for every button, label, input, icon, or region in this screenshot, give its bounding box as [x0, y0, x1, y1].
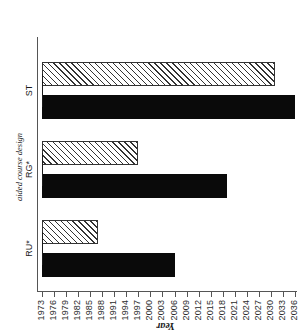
axis-tick	[66, 292, 67, 297]
bar-rg-hatched	[42, 141, 138, 165]
axis-tick	[102, 292, 103, 297]
category-axis-line	[37, 37, 38, 292]
axis-tick	[211, 292, 212, 297]
axis-tick-label: 1994	[120, 300, 130, 334]
value-axis-title: Year	[156, 321, 174, 332]
plot-area: 2036203320302027202420212018201520122009…	[0, 28, 302, 302]
axis-tick-label: 2033	[277, 300, 287, 334]
bar-rg-solid	[42, 174, 227, 198]
axis-tick-label: 1973	[36, 300, 46, 334]
category-label-rg: RG*	[24, 161, 34, 178]
axis-tick-label: 1997	[132, 300, 142, 334]
axis-tick-label: 1991	[108, 300, 118, 334]
axis-tick-label: 2021	[229, 300, 239, 334]
axis-tick	[187, 292, 188, 297]
bar-st-solid	[42, 95, 295, 119]
bar-connector-cap	[42, 153, 43, 186]
category-axis-title: aided course design	[14, 133, 24, 201]
bar-connector-cap	[42, 232, 43, 265]
axis-tick-label: 2024	[241, 300, 251, 334]
axis-tick-label: 1982	[72, 300, 82, 334]
axis-tick	[199, 292, 200, 297]
axis-tick	[162, 292, 163, 297]
axis-tick	[78, 292, 79, 297]
axis-tick-label: 2018	[217, 300, 227, 334]
axis-tick-label: 2030	[265, 300, 275, 334]
axis-tick	[54, 292, 55, 297]
bar-connector-cap	[42, 74, 43, 107]
bar-ru-solid	[42, 253, 175, 277]
axis-tick	[175, 292, 176, 297]
category-label-ru: RU*	[24, 240, 34, 257]
axis-tick-label: 2036	[289, 300, 299, 334]
axis-tick	[223, 292, 224, 297]
axis-tick-label: 1985	[84, 300, 94, 334]
bar-chart: 2036203320302027202420212018201520122009…	[0, 28, 302, 302]
axis-tick	[283, 292, 284, 297]
axis-tick-label: 2012	[193, 300, 203, 334]
axis-tick-label: 2009	[181, 300, 191, 334]
category-label-st: ST	[24, 85, 34, 97]
axis-tick	[114, 292, 115, 297]
axis-tick	[126, 292, 127, 297]
axis-tick	[247, 292, 248, 297]
axis-tick-label: 1979	[60, 300, 70, 334]
bar-st-hatched	[42, 62, 275, 86]
axis-tick	[271, 292, 272, 297]
axis-tick-label: 2027	[253, 300, 263, 334]
axis-tick-label: 2015	[205, 300, 215, 334]
axis-tick	[235, 292, 236, 297]
axis-tick-label: 1988	[96, 300, 106, 334]
axis-tick-label: 1976	[48, 300, 58, 334]
axis-tick	[42, 292, 43, 297]
axis-tick	[295, 292, 296, 297]
axis-tick	[259, 292, 260, 297]
axis-tick-label: 2000	[144, 300, 154, 334]
bar-ru-hatched	[42, 220, 98, 244]
axis-tick	[138, 292, 139, 297]
axis-tick	[150, 292, 151, 297]
axis-tick	[90, 292, 91, 297]
